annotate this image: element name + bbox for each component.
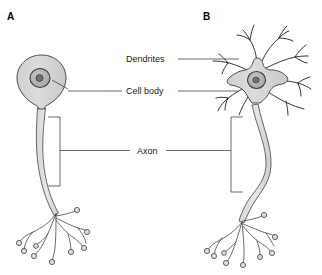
nucleolus-b	[253, 77, 259, 83]
callout-axon: Axon	[68, 146, 223, 156]
axon-bracket-a	[48, 117, 60, 186]
axon-shaft-b	[239, 104, 271, 223]
nucleolus-a	[36, 75, 43, 82]
axon-shaft-a	[36, 108, 58, 216]
callout-cell-body: Cell body	[68, 86, 238, 96]
axon-label: Axon	[137, 146, 158, 156]
axon-terminals-a	[16, 207, 89, 264]
panel-a-group: A	[7, 11, 90, 265]
panel-a-letter: A	[7, 11, 14, 22]
neuron-diagram-canvas: A	[0, 0, 322, 275]
axon-bracket-b	[231, 117, 243, 192]
dendrites-label: Dendrites	[126, 54, 165, 64]
callout-dendrites: Dendrites	[126, 54, 239, 64]
neuron-diagram-figure: A	[0, 0, 322, 275]
panel-b-letter: B	[203, 11, 210, 22]
cell-body-label: Cell body	[126, 86, 164, 96]
panel-b-group: B	[203, 11, 311, 268]
